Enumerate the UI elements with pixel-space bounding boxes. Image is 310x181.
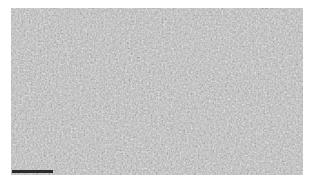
scale-bar — [12, 170, 53, 173]
texture-pattern — [11, 8, 303, 175]
micrograph-image — [11, 8, 303, 175]
